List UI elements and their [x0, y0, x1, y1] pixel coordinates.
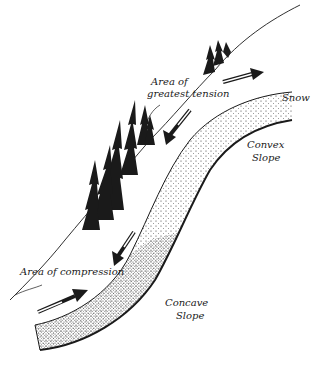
label-convex-line1: Convex	[247, 139, 284, 150]
compression-leader-line	[15, 285, 42, 295]
label-tension-line2: greatest tension	[147, 88, 230, 99]
tension-arrow-downslope	[163, 110, 190, 145]
label-tension-line1: Area of	[151, 76, 188, 87]
label-compression: Area of compression	[20, 266, 124, 277]
label-concave-line1: Concave	[165, 297, 208, 308]
tension-arrow-upslope	[223, 68, 264, 82]
label-convex-line2: Slope	[252, 152, 280, 163]
label-snow: Snow	[282, 92, 310, 103]
label-concave-line2: Slope	[176, 310, 204, 321]
slope-diagram	[0, 0, 328, 373]
